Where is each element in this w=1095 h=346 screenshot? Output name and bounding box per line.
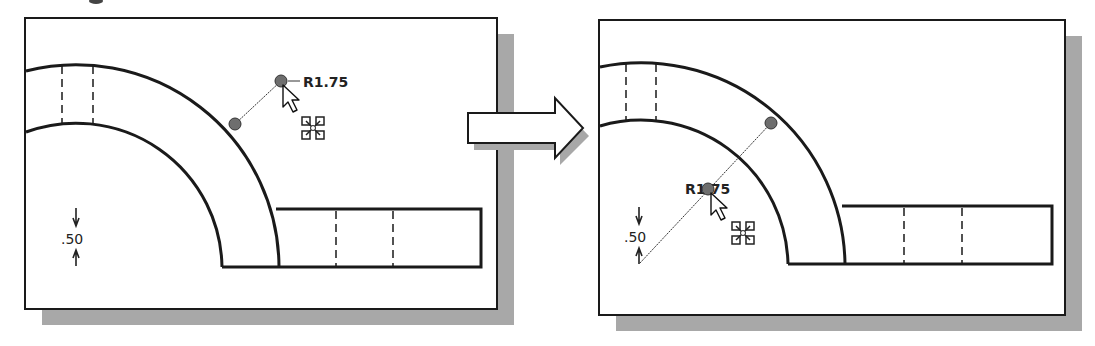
panel-before: R1.75 .50 xyxy=(25,18,514,325)
figure-canvas: R1.75 .50 R1.75 xyxy=(0,0,1095,346)
dimension-grip-dot[interactable] xyxy=(275,75,287,87)
radius-label: R1.75 xyxy=(303,74,348,90)
dimension-grip-dot[interactable] xyxy=(765,117,777,129)
panel-after: R1.75 .50 xyxy=(599,20,1082,331)
dimension-grip-dot[interactable] xyxy=(229,118,241,130)
linear-label: .50 xyxy=(624,229,646,245)
cropped-text-fragment xyxy=(89,0,103,4)
linear-label: .50 xyxy=(61,231,83,247)
panel-frame xyxy=(25,18,497,309)
